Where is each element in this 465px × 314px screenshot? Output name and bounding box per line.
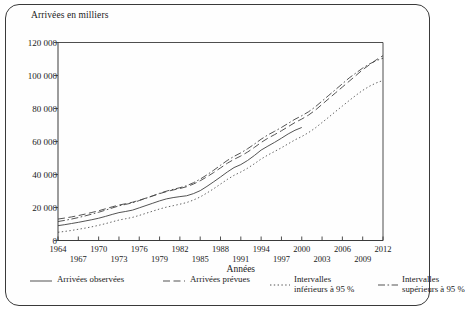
legend-label-line2: inférieurs à 95 % (294, 285, 354, 295)
legend-label-line1: Arrivées observées (57, 275, 124, 285)
legend-label-line2: supérieurs à 95 % (402, 285, 465, 295)
legend-label-line1: Arrivées prévues (190, 275, 250, 285)
legend-label: Intervallesinférieurs à 95 % (294, 275, 354, 294)
legend-label: Intervallessupérieurs à 95 % (402, 275, 465, 294)
legend-label: Arrivées prévues (190, 275, 250, 285)
legend-label: Arrivées observées (57, 275, 124, 285)
